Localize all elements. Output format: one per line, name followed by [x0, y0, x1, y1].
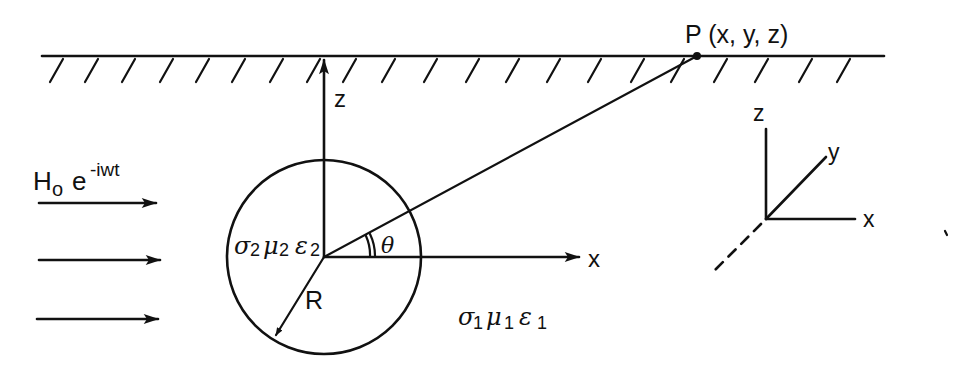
field-H: H — [33, 166, 52, 196]
mu2-subscript: 2 — [279, 240, 289, 260]
main-axes: z x — [324, 60, 600, 272]
angle-theta-label: θ — [381, 233, 394, 258]
ref-y-axis — [766, 157, 826, 219]
diagram-canvas: P (x, y, z) H o e -iwt R θ σ 2 μ 2 ε 2 — [0, 0, 979, 369]
hatch-mark — [196, 59, 209, 82]
hatch-mark — [837, 59, 850, 82]
ref-z-label: z — [753, 100, 765, 126]
sigma2-subscript: 2 — [250, 240, 260, 260]
ref-y-label: y — [828, 139, 840, 165]
hatch-mark — [343, 59, 356, 82]
hatch-mark — [631, 59, 644, 82]
sphere-properties-label: σ 2 μ 2 ε 2 — [234, 232, 320, 260]
hatch-mark — [547, 59, 560, 82]
hatch-mark — [382, 59, 395, 82]
hatch-mark — [307, 59, 320, 82]
hatch-mark — [799, 59, 812, 82]
mu2-symbol: μ — [263, 232, 279, 260]
surface-hatching — [50, 59, 850, 82]
ref-negative-y-axis-dashed — [711, 224, 761, 274]
hatch-mark — [160, 59, 173, 82]
hatch-mark — [506, 59, 519, 82]
hatch-mark — [466, 59, 479, 82]
mu1-symbol: μ — [486, 303, 502, 331]
observation-point: P (x, y, z) — [685, 20, 788, 60]
incident-field-arrows — [37, 203, 160, 319]
hatch-mark — [50, 59, 63, 82]
eps1-symbol: ε — [519, 303, 532, 331]
hatch-mark — [588, 59, 601, 82]
radius-label: R — [305, 286, 323, 314]
hatch-mark — [714, 59, 727, 82]
hatch-mark — [424, 59, 437, 82]
hatch-mark — [755, 59, 768, 82]
sigma1-subscript: 1 — [473, 313, 483, 333]
sigma2-symbol: σ — [234, 232, 251, 260]
hatch-mark — [270, 59, 283, 82]
eps2-subscript: 2 — [310, 240, 320, 260]
eps2-symbol: ε — [295, 232, 308, 260]
stray-mark — [945, 231, 947, 235]
hatch-mark — [671, 59, 684, 82]
reference-axes: z y x — [711, 100, 875, 274]
hatch-mark — [85, 59, 98, 82]
eps1-subscript: 1 — [537, 313, 547, 333]
field-e: e — [72, 166, 86, 196]
host-medium-label: σ 1 μ 1 ε 1 — [458, 303, 547, 333]
incident-field-label: H o e -iwt — [33, 159, 120, 200]
ref-x-label: x — [863, 206, 875, 232]
field-H-subscript: o — [52, 178, 63, 200]
hatch-mark — [232, 59, 245, 82]
position-vector-line — [324, 56, 697, 257]
ground-surface — [42, 56, 884, 82]
hatch-mark — [122, 59, 135, 82]
point-p-label: P (x, y, z) — [685, 20, 788, 48]
field-exponent: -iwt — [90, 159, 120, 180]
z-axis-label: z — [334, 85, 346, 112]
x-axis-label: x — [588, 245, 600, 272]
angle-arc-inner — [366, 236, 370, 257]
mu1-subscript: 1 — [504, 313, 514, 333]
